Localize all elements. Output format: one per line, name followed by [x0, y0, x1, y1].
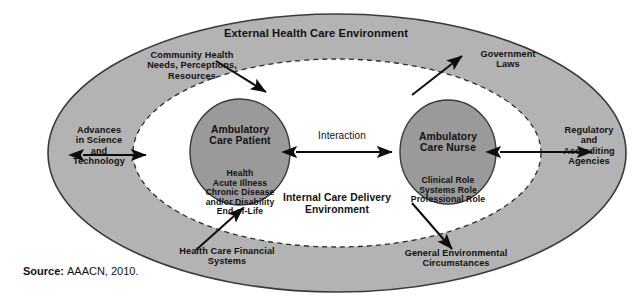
- external-factor-advances-science-technology: Advances in Science and Technology: [62, 125, 136, 166]
- ambulatory-care-conceptual-model: External Health Care Environment Communi…: [0, 0, 633, 305]
- ambulatory-care-patient-title: Ambulatory Care Patient: [184, 124, 296, 147]
- source-value: AAACN, 2010.: [64, 265, 139, 277]
- ambulatory-care-nurse-title: Ambulatory Care Nurse: [392, 131, 504, 154]
- external-factor-health-care-financial-systems: Health Care Financial Systems: [160, 246, 294, 267]
- internal-environment-title: Internal Care Delivery Environment: [257, 192, 417, 215]
- external-factor-community-health: Community Health Needs, Perceptions, Res…: [128, 50, 256, 81]
- source-caption: Source:AAACN, 2010.: [23, 265, 139, 277]
- external-environment-title: External Health Care Environment: [196, 27, 436, 40]
- external-factor-general-environmental-circumstances: General Environmental Circumstances: [381, 248, 531, 269]
- source-label: Source:: [23, 265, 64, 277]
- interaction-label: Interaction: [292, 130, 392, 141]
- external-factor-government-laws: Government Laws: [460, 49, 556, 70]
- external-factor-regulatory-accrediting-agencies: Regulatory and Accrediting Agencies: [551, 125, 627, 166]
- ambulatory-care-patient-node: Ambulatory Care Patient Health Acute Ill…: [184, 106, 296, 235]
